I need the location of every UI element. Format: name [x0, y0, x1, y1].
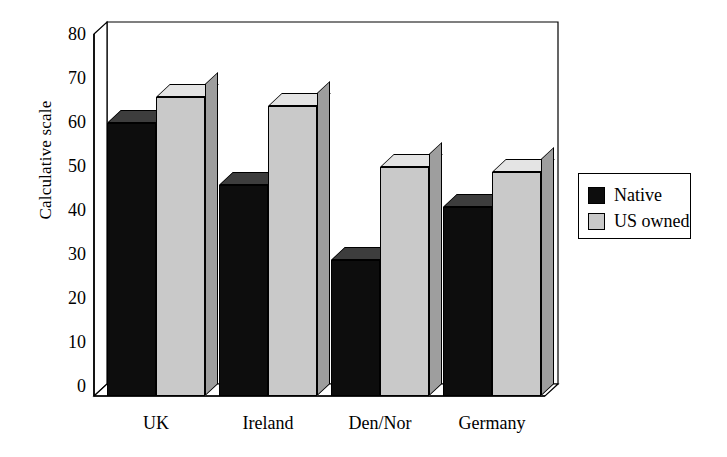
bar-ireland-usowned	[268, 0, 317, 396]
x-tick-label-ireland: Ireland	[218, 414, 318, 432]
bar-germany-usowned	[492, 0, 541, 396]
legend-swatch-usowned-icon	[588, 213, 605, 230]
legend-label-native: Native	[614, 186, 662, 204]
legend-item-native: Native	[588, 182, 680, 208]
bar-ireland-native	[219, 0, 268, 396]
bar-germany-native	[443, 0, 492, 396]
x-tick-label-uk: UK	[106, 414, 206, 432]
bar-chart: Calculative scale 80 70 60 50 40 30 20 1…	[0, 0, 727, 457]
x-tick-label-dennor: Den/Nor	[330, 414, 430, 432]
bar-dennor-usowned	[380, 0, 429, 396]
legend-label-usowned: US owned	[614, 212, 690, 230]
legend-swatch-native-icon	[588, 187, 605, 204]
legend: Native US owned	[578, 173, 691, 239]
bar-uk-usowned	[156, 0, 205, 396]
bar-dennor-native	[331, 0, 380, 396]
legend-item-usowned: US owned	[588, 208, 680, 234]
x-tick-label-germany: Germany	[442, 414, 542, 432]
bar-uk-native	[107, 0, 156, 396]
